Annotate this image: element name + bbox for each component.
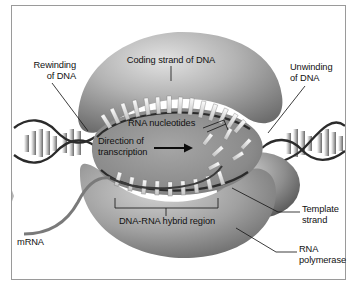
- transcription-diagram: Coding strand of DNA Rewinding of DNA Un…: [0, 0, 353, 287]
- label-coding-strand: Coding strand of DNA: [101, 55, 241, 66]
- label-rewinding-of-dna: Rewinding of DNA: [8, 60, 76, 81]
- label-unwinding-of-dna: Unwinding of DNA: [290, 62, 352, 83]
- label-rna-nucleotides: RNA nucleotides: [128, 118, 220, 129]
- label-direction-of-transcription: Direction of transcription: [98, 136, 156, 157]
- side-marker-arrowhead-icon: [0, 182, 14, 210]
- label-dna-rna-hybrid-region: DNA-RNA hybrid region: [96, 216, 238, 227]
- label-mrna: mRNA: [17, 237, 63, 248]
- label-template-strand: Template strand: [302, 204, 352, 225]
- label-rna-polymerase: RNA polymerase: [299, 244, 353, 265]
